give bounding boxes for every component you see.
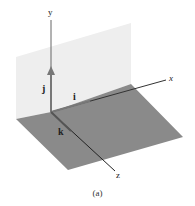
x-axis-label: x — [169, 74, 173, 83]
y-axis-label: y — [48, 8, 53, 17]
j-vector-label: j — [42, 84, 45, 94]
coordinate-diagram — [0, 0, 195, 206]
k-vector-label: k — [58, 127, 64, 137]
z-axis-label: z — [116, 171, 120, 180]
i-vector-label: i — [73, 92, 76, 102]
figure-caption: (a) — [0, 188, 195, 198]
